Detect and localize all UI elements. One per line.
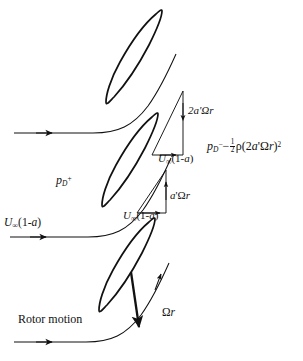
label-upper-tangential-velocity: 2a'Ωr	[188, 105, 214, 116]
rotor-cascade-diagram	[0, 0, 303, 361]
label-lower-tangential-velocity: a'Ωr	[170, 190, 190, 201]
label-lower-axial-velocity: U∞(1-a)	[123, 210, 158, 223]
label-pressure-downstream: pD−−12ρ(2a'Ωr)2	[207, 139, 281, 155]
label-pressure-upstream: pD+	[56, 174, 72, 188]
label-upper-axial-velocity: U∞(1-a)	[158, 153, 193, 166]
diagram-background	[0, 0, 303, 361]
label-rotor-motion: Rotor motion	[18, 313, 82, 325]
label-blade-speed: Ωr	[162, 307, 175, 319]
label-freestream-inflow: U∞(1-a)	[4, 217, 41, 230]
